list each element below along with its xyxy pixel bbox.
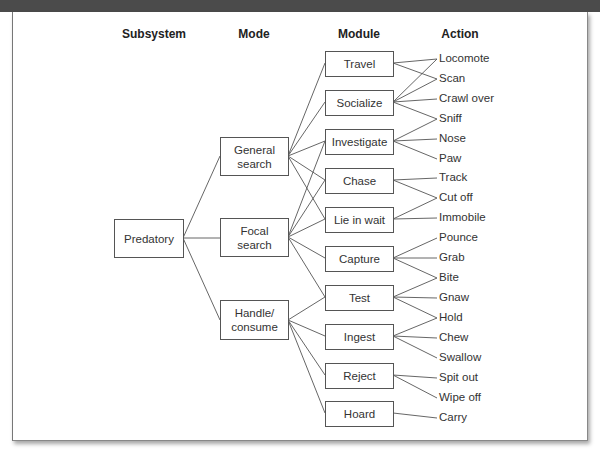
connector-lines bbox=[0, 0, 600, 455]
module-lie-in-wait: Lie in wait bbox=[325, 207, 394, 233]
action-gnaw: Gnaw bbox=[439, 291, 469, 303]
mode-focal-search: Focal search bbox=[220, 218, 289, 257]
module-travel: Travel bbox=[325, 51, 394, 77]
action-locomote: Locomote bbox=[439, 52, 490, 64]
action-pounce: Pounce bbox=[439, 231, 478, 243]
module-investigate: Investigate bbox=[325, 129, 394, 155]
action-cut-off: Cut off bbox=[439, 191, 473, 203]
action-track: Track bbox=[439, 171, 467, 183]
action-wipe-off: Wipe off bbox=[439, 391, 481, 403]
action-spit-out: Spit out bbox=[439, 371, 478, 383]
action-hold: Hold bbox=[439, 311, 463, 323]
module-reject: Reject bbox=[325, 363, 394, 389]
action-sniff: Sniff bbox=[439, 112, 462, 124]
action-chew: Chew bbox=[439, 331, 468, 343]
action-immobile: Immobile bbox=[439, 211, 486, 223]
module-capture: Capture bbox=[325, 246, 394, 272]
action-nose: Nose bbox=[439, 132, 466, 144]
module-test: Test bbox=[325, 285, 394, 311]
action-carry: Carry bbox=[439, 411, 467, 423]
mode-general-search: General search bbox=[220, 137, 289, 176]
module-chase: Chase bbox=[325, 168, 394, 194]
action-swallow: Swallow bbox=[439, 351, 481, 363]
action-paw: Paw bbox=[439, 152, 461, 164]
module-ingest: Ingest bbox=[325, 324, 394, 350]
action-crawl-over: Crawl over bbox=[439, 92, 494, 104]
action-scan: Scan bbox=[439, 72, 465, 84]
module-socialize: Socialize bbox=[325, 90, 394, 116]
action-grab: Grab bbox=[439, 251, 465, 263]
mode-handle-consume: Handle/ consume bbox=[220, 300, 289, 340]
action-bite: Bite bbox=[439, 271, 459, 283]
subsystem-predatory: Predatory bbox=[114, 219, 184, 258]
module-hoard: Hoard bbox=[325, 401, 394, 427]
